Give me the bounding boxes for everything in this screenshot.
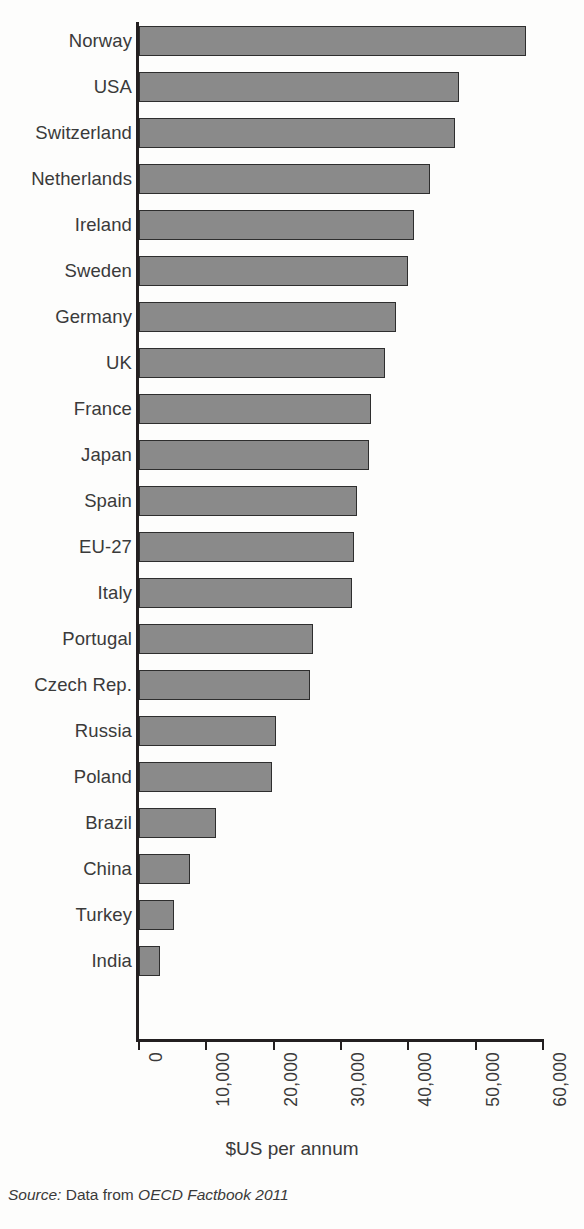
category-label: Switzerland <box>35 118 132 148</box>
bar-row: UK <box>0 348 584 394</box>
x-axis-title: $US per annum <box>0 1138 584 1160</box>
bar <box>139 486 357 516</box>
x-tick-label: 0 <box>146 1052 167 1062</box>
bar-row: Brazil <box>0 808 584 854</box>
plot-area: NorwayUSASwitzerlandNetherlandsIrelandSw… <box>0 0 584 1045</box>
category-label: Norway <box>69 26 132 56</box>
bar <box>139 348 385 378</box>
x-axis-tick-labels: 010,00020,00030,00040,00050,00060,000 <box>0 1052 584 1132</box>
source-note: Source: Data from OECD Factbook 2011 <box>8 1186 289 1204</box>
source-work-title: OECD Factbook 2011 <box>138 1186 288 1203</box>
bar <box>139 532 354 562</box>
category-label: France <box>74 394 132 424</box>
x-tick-label: 20,000 <box>281 1052 302 1107</box>
category-label: Czech Rep. <box>34 670 132 700</box>
x-tick-label: 40,000 <box>415 1052 436 1107</box>
bar <box>139 26 526 56</box>
bar <box>139 72 459 102</box>
x-tick-label: 60,000 <box>550 1052 571 1107</box>
bar-row: Turkey <box>0 900 584 946</box>
x-tick <box>340 1039 342 1050</box>
bar-row: Netherlands <box>0 164 584 210</box>
bar-row: Italy <box>0 578 584 624</box>
bar-row: Switzerland <box>0 118 584 164</box>
bar-row: Poland <box>0 762 584 808</box>
bar <box>139 716 276 746</box>
category-label: Turkey <box>76 900 132 930</box>
category-label: China <box>83 854 132 884</box>
source-text: Data from <box>66 1186 134 1203</box>
x-tick-label: 10,000 <box>213 1052 234 1107</box>
bar-row: China <box>0 854 584 900</box>
bar-row: Czech Rep. <box>0 670 584 716</box>
bar <box>139 440 369 470</box>
category-label: Netherlands <box>31 164 132 194</box>
bar <box>139 578 352 608</box>
bar <box>139 946 160 976</box>
bar <box>139 210 414 240</box>
bar <box>139 118 455 148</box>
category-label: Portugal <box>62 624 132 654</box>
bar <box>139 900 174 930</box>
category-label: India <box>91 946 132 976</box>
bar-row: USA <box>0 72 584 118</box>
x-tick <box>205 1039 207 1050</box>
bar-row: Japan <box>0 440 584 486</box>
category-label: UK <box>106 348 132 378</box>
category-label: Poland <box>74 762 132 792</box>
bar-row: Spain <box>0 486 584 532</box>
bar <box>139 256 408 286</box>
source-label: Source: <box>8 1186 61 1203</box>
bar-row: EU-27 <box>0 532 584 578</box>
category-label: Japan <box>81 440 132 470</box>
category-label: Sweden <box>65 256 132 286</box>
category-label: Italy <box>98 578 132 608</box>
bar <box>139 302 396 332</box>
bar-row: France <box>0 394 584 440</box>
bar-row: Germany <box>0 302 584 348</box>
bar <box>139 670 310 700</box>
bar <box>139 624 313 654</box>
x-tick <box>542 1039 544 1050</box>
category-label: USA <box>94 72 132 102</box>
bar-row: Russia <box>0 716 584 762</box>
bar-row: Norway <box>0 26 584 72</box>
category-label: EU-27 <box>79 532 132 562</box>
x-tick <box>273 1039 275 1050</box>
category-label: Brazil <box>85 808 132 838</box>
bar-row: Sweden <box>0 256 584 302</box>
bar <box>139 164 430 194</box>
bar-row: Ireland <box>0 210 584 256</box>
x-tick-label: 50,000 <box>483 1052 504 1107</box>
x-tick <box>475 1039 477 1050</box>
bar <box>139 854 190 884</box>
x-tick <box>407 1039 409 1050</box>
bar-row: India <box>0 946 584 992</box>
bar-row: Portugal <box>0 624 584 670</box>
bar <box>139 808 216 838</box>
category-label: Russia <box>75 716 132 746</box>
category-label: Ireland <box>75 210 132 240</box>
x-axis-ticks <box>0 1039 584 1049</box>
figure: NorwayUSASwitzerlandNetherlandsIrelandSw… <box>0 0 584 1229</box>
x-tick-label: 30,000 <box>348 1052 369 1107</box>
category-label: Germany <box>55 302 132 332</box>
bar-rows: NorwayUSASwitzerlandNetherlandsIrelandSw… <box>0 26 584 992</box>
x-tick <box>138 1039 140 1050</box>
bar <box>139 762 272 792</box>
category-label: Spain <box>84 486 132 516</box>
bar <box>139 394 371 424</box>
